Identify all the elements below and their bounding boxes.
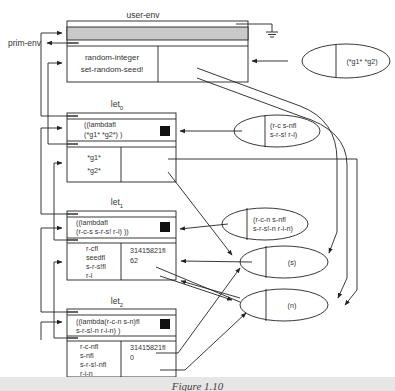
closure-let1-line1: (r-c-n s-nfl [253, 215, 286, 224]
let1-binding-1: seedfl [86, 253, 106, 262]
let2-label: let2 [111, 296, 124, 308]
let2-value-0: 31415821fl [130, 343, 166, 352]
let0-expr-line2: (*g1* *g2*) ) [84, 130, 122, 139]
let2-binding-2: s-r-s!-nfl [80, 360, 107, 369]
let0-expr-line1: ((lambdafl [84, 120, 116, 129]
let1-binding-2: s-r-s!fl [86, 262, 106, 271]
user-env-frame: user-env random-integer set-random-seed! [67, 10, 248, 82]
let1-frame: let1 ((lambdafl (r-c-s s-r-s! r-i) )) r-… [67, 197, 176, 280]
let2-expr-line1: ((lambda(r-c-n s-n)fl [76, 317, 140, 326]
let2-binding-1: s-nfl [80, 351, 94, 360]
user-env-shaded-band [67, 27, 248, 40]
let1-expr-line1: ((lambdafl [76, 218, 108, 227]
let1-label: let1 [111, 197, 124, 209]
binding-set-random-seed: set-random-seed! [81, 65, 144, 74]
prim-env-label: prim-env [8, 38, 42, 48]
closure-let0-line1: (r-c s-nfl [270, 121, 297, 130]
closure-n-params: (n) [288, 301, 297, 310]
let2-value-1: 0 [130, 353, 134, 362]
ground-icon [248, 24, 278, 37]
user-env-label: user-env [126, 10, 160, 20]
figure-caption: Figure 1.10 [0, 377, 395, 391]
let1-expr-line2: (r-c-s s-r-s! r-i) )) [76, 227, 129, 236]
let0-binding-g1: *g1* [87, 153, 101, 162]
closure-user-params: (*g1* *g2) [346, 57, 377, 66]
let1-value-0: 31415821fl [130, 246, 166, 255]
closure-let1-line2: s-r-s!-n r-i-n) [253, 224, 293, 233]
closure-user: (*g1* *g2) [252, 44, 390, 78]
let2-body-marker [160, 319, 170, 329]
let2-expr-line2: s-r-s!-n r-i-n) ) [76, 326, 120, 335]
closure-s: (s) [181, 246, 328, 278]
closure-let0-line2: s-r-s! r-i) [270, 130, 297, 139]
let1-value-1: 62 [130, 256, 138, 265]
let1-binding-0: r-cfl [86, 244, 98, 253]
let1-body-marker [160, 222, 170, 232]
environment-diagram: user-env random-integer set-random-seed!… [0, 0, 395, 391]
let0-body-marker [160, 126, 170, 136]
binding-random-integer: random-integer [85, 53, 140, 62]
let2-binding-0: r-c-nfl [80, 342, 99, 351]
let2-frame: let2 ((lambda(r-c-n s-n)fl s-r-s!-n r-i-… [67, 296, 176, 378]
closure-let0: (r-c s-nfl s-r-s! r-i) [180, 115, 320, 147]
let0-binding-g2: *g2* [87, 166, 101, 175]
closure-s-params: (s) [288, 258, 296, 267]
let0-label: let0 [111, 99, 124, 111]
let1-binding-3: r-i [86, 271, 93, 280]
let0-frame: let0 ((lambdafl (*g1* *g2*) ) *g1* *g2* [67, 99, 176, 182]
